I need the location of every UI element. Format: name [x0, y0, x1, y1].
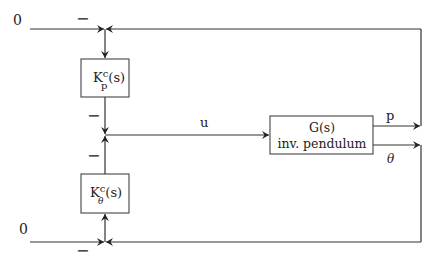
- diagram-svg: 0 0 − − − − Kc(s) p Kc(s) θ G(s) inv. pe…: [0, 0, 438, 263]
- signal-p-label: p: [386, 108, 394, 123]
- plant-label-line2: inv. pendulum: [278, 136, 367, 151]
- input-top-label: 0: [13, 12, 22, 28]
- minus-sign-mid-top: −: [87, 106, 100, 125]
- kp-label: Kc(s): [93, 68, 125, 85]
- plant-label-line1: G(s): [309, 120, 335, 135]
- signal-theta-label: θ: [387, 152, 395, 166]
- minus-sign-top: −: [76, 9, 89, 28]
- input-bottom-label: 0: [19, 221, 28, 237]
- kp-subscript: p: [101, 80, 107, 91]
- ktheta-subscript: θ: [98, 196, 104, 206]
- ktheta-label: Kc(s): [90, 183, 122, 200]
- block-diagram: 0 0 − − − − Kc(s) p Kc(s) θ G(s) inv. pe…: [0, 0, 438, 263]
- minus-sign-bottom: −: [76, 241, 89, 260]
- minus-sign-mid-bottom: −: [87, 146, 100, 165]
- signal-u-label: u: [200, 115, 208, 130]
